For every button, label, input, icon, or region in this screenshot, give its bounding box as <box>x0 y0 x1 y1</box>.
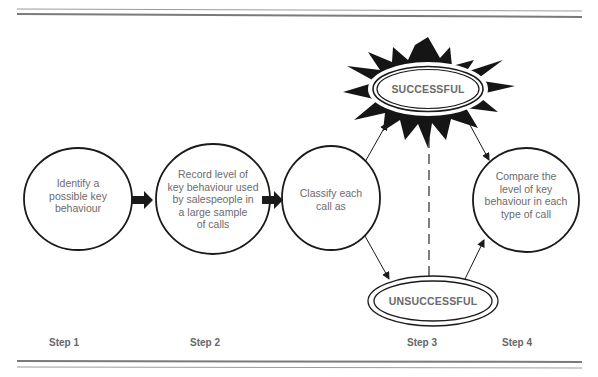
arrow-to-unsuccessful <box>365 236 389 279</box>
arrow-successful-to-compare <box>470 125 489 160</box>
text-line: a large sample <box>156 206 270 219</box>
text-line: by salespeople in <box>156 193 270 206</box>
step4-text: Compare the level of key behaviour in ea… <box>474 170 578 220</box>
step1-text: Identify a possible key behaviour <box>30 177 126 215</box>
step3-text: Classify each call as <box>286 187 376 212</box>
text-line: key behaviour used <box>156 181 270 194</box>
step2-label: Step 2 <box>190 337 220 348</box>
text-line: Record level of <box>156 168 270 181</box>
text-line: Classify each <box>286 187 376 200</box>
bottom-rule <box>17 361 582 368</box>
text-line: type of call <box>474 208 578 221</box>
text-line: level of key <box>474 183 578 196</box>
text-line: call as <box>286 200 376 213</box>
top-rule <box>17 9 582 17</box>
step4-label: Step 4 <box>502 337 532 348</box>
text-line: behaviour in each <box>474 195 578 208</box>
text-line: Compare the <box>474 170 578 183</box>
text-line: of calls <box>156 218 270 231</box>
successful-label: SUCCESSFUL <box>378 83 478 95</box>
text-line: Identify a <box>30 177 126 190</box>
arrow-unsuccessful-to-compare <box>465 240 484 279</box>
unsuccessful-label: UNSUCCESSFUL <box>378 295 488 307</box>
step2-text: Record level of key behaviour used by sa… <box>156 168 270 231</box>
text-line: possible key <box>30 190 126 203</box>
step1-label: Step 1 <box>49 337 79 348</box>
arrow-to-successful <box>365 123 387 162</box>
step3-label: Step 3 <box>407 337 437 348</box>
block-arrow-icon <box>131 191 153 209</box>
text-line: behaviour <box>30 202 126 215</box>
